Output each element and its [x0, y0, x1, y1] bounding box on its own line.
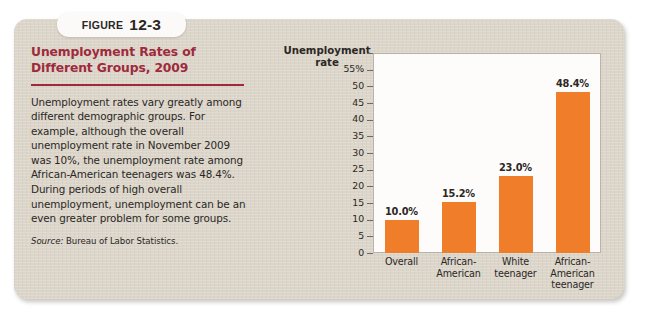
y-tick-label: 0	[358, 247, 364, 258]
bar-value-label: 15.2%	[442, 188, 475, 199]
figure-title: Unemployment Rates of Different Groups, …	[31, 45, 247, 76]
bar-slot: 48.4%	[556, 53, 590, 253]
figure-body-text: Unemployment rates vary greatly among di…	[31, 95, 247, 226]
bar-slot: 10.0%	[385, 53, 419, 253]
source-text: Bureau of Labor Statistics.	[66, 236, 178, 246]
figure-number: 12-3	[129, 16, 161, 34]
x-label-line: American	[436, 268, 480, 279]
figure-container: FIGURE 12-3 Unemployment Rates of Differ…	[0, 0, 653, 323]
y-tick-label: 20	[352, 180, 364, 191]
x-label-line: teenager	[551, 279, 593, 290]
y-tick-label: 45	[352, 97, 364, 108]
x-axis-labels: OverallAfrican-AmericanWhiteteenagerAfri…	[373, 256, 601, 298]
y-tick-label: 15	[352, 197, 364, 208]
x-label-line: teenager	[494, 268, 536, 279]
x-label-line: Overall	[385, 256, 418, 267]
bar[interactable]	[385, 220, 419, 253]
x-label-line: African-	[555, 256, 591, 267]
x-label-line: American	[550, 268, 594, 279]
y-tick-label: 40	[352, 113, 364, 124]
bar[interactable]	[442, 202, 476, 253]
x-axis-label: African-American	[430, 256, 487, 279]
bar-value-label: 10.0%	[385, 206, 418, 217]
x-axis-label: Overall	[373, 256, 430, 268]
bar-series: 10.0%15.2%23.0%48.4%	[373, 53, 601, 253]
y-tick-label: 5	[358, 230, 364, 241]
y-tick-label: 30	[352, 147, 364, 158]
figure-label-word: FIGURE	[82, 19, 123, 31]
figure-number-tab: FIGURE 12-3	[57, 12, 186, 37]
title-divider	[31, 84, 244, 86]
y-tick-label: 55%	[343, 63, 364, 74]
x-axis-label: African-Americanteenager	[544, 256, 601, 291]
source-label: Source:	[31, 236, 63, 246]
x-axis-label: Whiteteenager	[487, 256, 544, 279]
y-tick-label: 25	[352, 163, 364, 174]
y-tick-mark	[367, 253, 373, 254]
y-tick-label: 10	[352, 213, 364, 224]
figure-text-column: Unemployment Rates of Different Groups, …	[31, 45, 247, 255]
bar-slot: 23.0%	[499, 53, 533, 253]
bar-value-label: 23.0%	[499, 162, 532, 173]
y-axis-ticks: 0510152025303540455055%	[281, 53, 373, 253]
figure-source: Source: Bureau of Labor Statistics.	[31, 236, 247, 246]
bar-value-label: 48.4%	[556, 78, 589, 89]
bar-slot: 15.2%	[442, 53, 476, 253]
bar[interactable]	[556, 92, 590, 253]
x-label-line: White	[502, 256, 529, 267]
x-label-line: African-	[441, 256, 477, 267]
bar-chart: Unemployment rate 0510152025303540455055…	[281, 45, 611, 295]
y-tick-label: 35	[352, 130, 364, 141]
bar[interactable]	[499, 176, 533, 253]
y-tick-label: 50	[352, 80, 364, 91]
